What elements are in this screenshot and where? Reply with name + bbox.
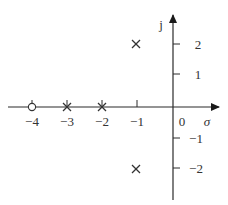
imag-tick-label: −2	[189, 161, 203, 176]
real-axis-label: σ	[204, 114, 211, 129]
imag-tick-label: 1	[195, 67, 202, 82]
imaginary-axis-ticks	[173, 44, 180, 168]
pole-marker	[132, 40, 140, 48]
real-tick-label: −1	[130, 114, 144, 129]
pole-marker	[132, 165, 140, 173]
imag-tick-label: 2	[195, 37, 202, 52]
origin-label: 0	[179, 114, 186, 129]
real-tick-label: −3	[60, 114, 74, 129]
real-axis-ticks	[32, 100, 137, 107]
pole-zero-plot: −4 −3 −2 −1 0 σ j 2 1 −1 −2	[0, 0, 228, 205]
imaginary-axis-label: j	[158, 17, 163, 32]
real-tick-label: −4	[25, 114, 39, 129]
imag-tick-label: −1	[189, 131, 203, 146]
real-tick-label: −2	[95, 114, 109, 129]
zero-marker	[28, 103, 35, 110]
